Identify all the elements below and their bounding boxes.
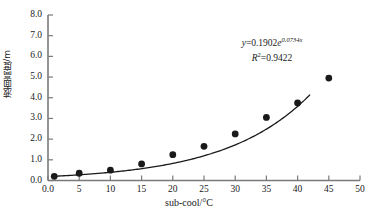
fit-curve [54,95,310,177]
x-axis-tick-label: 20 [160,184,186,194]
x-axis-tick-label: 35 [253,184,279,194]
x-axis-tick-label: 50 [347,184,373,194]
equation-line: y=0.1902e0.0734x [212,34,332,49]
data-point [263,114,270,121]
r-squared-value: =0.9422 [261,53,292,63]
x-axis-tick-label: 30 [222,184,248,194]
chart-figure: 液面高度/m sub-cool/°C 0.01.02.03.04.05.06.0… [0,0,378,219]
y-axis-tick-label: 7.0 [16,30,42,40]
x-axis-tick-label: 0.0 [35,184,61,194]
data-point [325,75,332,82]
x-axis-title: sub-cool/°C [0,197,378,208]
x-axis-tick-label: 5 [66,184,92,194]
data-point [294,100,301,107]
x-axis-tick-label: 15 [129,184,155,194]
data-point [107,167,114,174]
y-axis-tick-label: 4.0 [16,92,42,102]
y-axis-tick-label: 2.0 [16,133,42,143]
data-point [51,173,58,180]
y-axis-tick-label: 3.0 [16,112,42,122]
x-axis-tick-label: 45 [316,184,342,194]
x-axis-tick-label: 10 [97,184,123,194]
data-point [76,170,83,177]
data-point [169,151,176,158]
fit-equation-annotation: y=0.1902e0.0734x R2=0.9422 [212,34,332,64]
r-squared-line: R2=0.9422 [212,49,332,64]
data-point [201,143,208,150]
data-point [232,131,239,138]
y-axis-tick-label: 1.0 [16,154,42,164]
y-axis-tick-label: 6.0 [16,50,42,60]
data-point [138,161,145,168]
y-axis-tick-label: 8.0 [16,9,42,19]
data-point-markers [51,75,332,180]
x-axis-tick-label: 25 [191,184,217,194]
y-axis-tick-label: 5.0 [16,71,42,81]
x-axis-tick-label: 40 [285,184,311,194]
equation-coefficient: =0.1902 [246,38,277,48]
equation-exponent: 0.0734x [282,36,303,43]
